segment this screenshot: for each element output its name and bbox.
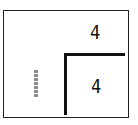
region-label-top-right: 4 [90,22,100,42]
horizontal-divider-line [64,53,125,56]
vertical-divider-line [64,53,67,115]
region-label-bottom-right: 4 [91,76,101,96]
dashed-vertical-mark [34,70,38,98]
